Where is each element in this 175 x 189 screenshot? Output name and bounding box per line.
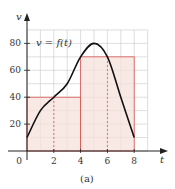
- midpoint-rule-chart: 0246820406080 v t v = f(t) (a): [0, 0, 175, 189]
- function-label: v = f(t): [36, 37, 72, 48]
- x-tick-label: 2: [51, 156, 57, 166]
- y-tick-label: 80: [10, 38, 22, 48]
- y-tick-label: 40: [10, 92, 22, 102]
- y-tick-label: 60: [10, 65, 22, 75]
- y-axis-label: v: [16, 11, 22, 22]
- midpoint-rectangles: [27, 57, 134, 151]
- y-tick-label: 20: [10, 119, 22, 129]
- x-tick-label: 0: [16, 156, 22, 166]
- x-tick-label: 8: [131, 156, 137, 166]
- y-axis-arrow-icon: [24, 13, 30, 21]
- x-tick-label: 6: [105, 156, 111, 166]
- x-tick-label: 4: [78, 156, 84, 166]
- x-axis-label: t: [160, 154, 165, 165]
- caption: (a): [80, 173, 94, 184]
